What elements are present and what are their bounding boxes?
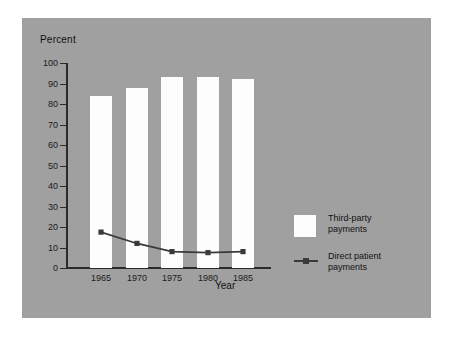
series-data-point xyxy=(134,241,139,246)
legend-label-line1: Direct patient xyxy=(328,251,381,261)
legend-swatch-icon xyxy=(294,215,316,237)
legend-line-marker-icon xyxy=(294,260,318,262)
series-data-point xyxy=(169,249,174,254)
x-axis-title: Year xyxy=(215,280,235,291)
series-data-point xyxy=(240,249,245,254)
legend-item-third-party-payments: Third-party payments xyxy=(294,214,424,240)
legend-label-third-party-payments: Third-party payments xyxy=(328,213,424,235)
legend-item-direct-patient-payments: Direct patient payments xyxy=(294,252,424,278)
legend-label-line2: payments xyxy=(328,224,367,234)
legend-label-line1: Third-party xyxy=(328,213,372,223)
series-data-point xyxy=(205,250,210,255)
legend-label-line2: payments xyxy=(328,262,367,272)
legend-label-direct-patient-payments: Direct patient payments xyxy=(328,251,424,273)
chart-panel: Percent 0102030405060708090100 196519701… xyxy=(22,18,431,318)
series-data-point xyxy=(98,230,103,235)
chart-figure: Percent 0102030405060708090100 196519701… xyxy=(0,0,453,337)
chart-legend: Third-party payments Direct patient paym… xyxy=(294,214,424,290)
